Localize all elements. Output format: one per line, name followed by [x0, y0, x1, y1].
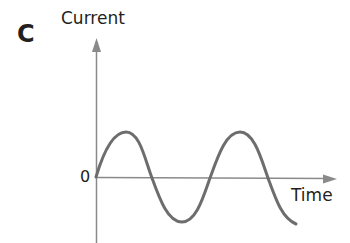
x-axis-arrow-icon: [323, 175, 337, 184]
x-axis: [96, 178, 330, 179]
current-time-graph: [0, 0, 350, 243]
y-axis-arrow-icon: [92, 38, 101, 52]
